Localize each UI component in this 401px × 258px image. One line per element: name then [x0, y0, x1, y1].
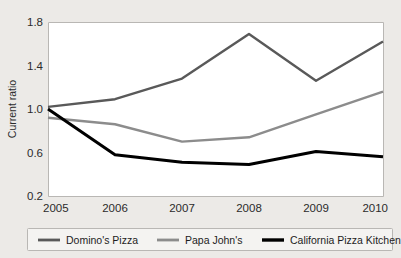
legend-label: Papa John's: [185, 234, 242, 246]
y-tick-label: 1.4: [27, 60, 44, 72]
legend-label: Domino's Pizza: [66, 234, 138, 246]
y-axis-title: Current ratio: [6, 80, 18, 139]
y-tick-label: 1.0: [27, 103, 43, 115]
x-tick-label: 2009: [303, 202, 329, 214]
line-chart: 0.20.61.01.41.8 200520062007200820092010…: [0, 0, 401, 258]
y-axis-tick-labels: 0.20.61.01.41.8: [27, 16, 44, 202]
y-tick-label: 0.2: [27, 190, 43, 202]
legend-entries: Domino's PizzaPapa John'sCalifornia Pizz…: [38, 234, 401, 246]
x-tick-label: 2007: [169, 202, 195, 214]
x-tick-label: 2008: [236, 202, 262, 214]
y-tick-label: 1.8: [27, 16, 43, 28]
x-tick-label: 2010: [362, 202, 388, 214]
chart-figure: 0.20.61.01.41.8 200520062007200820092010…: [0, 0, 401, 258]
y-tick-label: 0.6: [27, 147, 43, 159]
x-tick-label: 2006: [102, 202, 128, 214]
x-axis-tick-labels: 200520062007200820092010: [43, 202, 388, 214]
x-tick-label: 2005: [43, 202, 69, 214]
legend-label: California Pizza Kitchen: [290, 234, 401, 246]
